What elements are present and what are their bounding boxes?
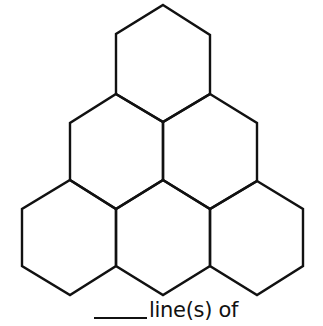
answer-blank[interactable] — [94, 316, 147, 319]
caption: line(s) of — [94, 296, 238, 322]
caption-text: line(s) of — [149, 298, 238, 322]
hexagon-middle-left — [70, 94, 163, 209]
hexagon-bottom-left — [22, 180, 116, 295]
hexagon-bottom-middle — [116, 180, 210, 295]
hexagon-top — [116, 5, 210, 122]
hexagon-middle-right — [163, 94, 257, 209]
hexagon-bottom-right — [210, 181, 303, 295]
hexagon-diagram — [0, 0, 323, 326]
